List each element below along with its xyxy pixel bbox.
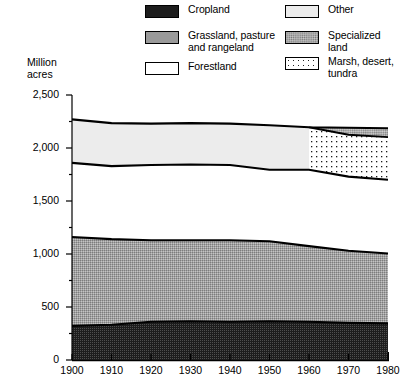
y-tick-label-500: 500 bbox=[13, 301, 59, 312]
y-tick-label-2500: 2,500 bbox=[13, 89, 59, 100]
x-tick-label-1950: 1950 bbox=[250, 365, 290, 376]
chart-svg bbox=[0, 0, 410, 385]
x-tick-label-1910: 1910 bbox=[92, 365, 132, 376]
y-tick-label-1000: 1,000 bbox=[13, 248, 59, 259]
x-tick-label-1960: 1960 bbox=[289, 365, 329, 376]
x-tick-label-1900: 1900 bbox=[52, 365, 92, 376]
y-tick-label-1500: 1,500 bbox=[13, 195, 59, 206]
y-axis-ticks bbox=[66, 95, 72, 360]
x-tick-label-1980: 1980 bbox=[368, 365, 408, 376]
x-tick-label-1940: 1940 bbox=[210, 365, 250, 376]
y-tick-label-0: 0 bbox=[13, 354, 59, 365]
x-tick-label-1930: 1930 bbox=[171, 365, 211, 376]
chart-plot-area: 2,500 2,000 1,500 1,000 500 0 1900 1910 … bbox=[0, 0, 410, 385]
x-tick-label-1970: 1970 bbox=[329, 365, 369, 376]
y-tick-label-2000: 2,000 bbox=[13, 142, 59, 153]
x-tick-label-1920: 1920 bbox=[131, 365, 171, 376]
